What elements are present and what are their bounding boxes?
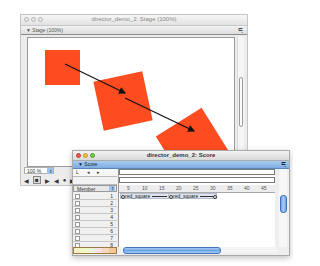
ruler-tick: 5 (127, 185, 130, 191)
score-panel-label: ▼ Score (78, 161, 97, 167)
display-select[interactable]: Member ⇕ (73, 185, 117, 192)
rewind-icon[interactable]: ◀ (24, 177, 29, 184)
markers-row: L ◂ ▸ (73, 169, 117, 177)
next-marker-icon[interactable]: ▸ (97, 169, 100, 175)
sprite-span-2[interactable]: red_square (168, 193, 217, 199)
ruler-tick: 20 (176, 185, 182, 191)
options-icon[interactable]: ≒ (238, 26, 243, 33)
ruler-tick: 40 (244, 185, 250, 191)
channel-row[interactable]: 1 (73, 193, 117, 200)
ruler-tick: 45 (261, 185, 267, 191)
score-horizontal-scrollbar[interactable] (121, 247, 277, 253)
ruler-tick: 30 (210, 185, 216, 191)
channel-row[interactable]: 6 (73, 228, 117, 235)
ruler-tick: 15 (159, 185, 165, 191)
channel-toggle[interactable] (75, 201, 80, 206)
score-panel-header[interactable]: ▼ Score ≒ (73, 161, 289, 169)
channel-number: 2 (110, 200, 113, 206)
channel-number: 1 (110, 193, 113, 199)
sprite-span-1[interactable]: red_square (120, 193, 170, 199)
sprite-label: red_square (173, 194, 198, 199)
marker-label-icon[interactable]: L (76, 169, 79, 175)
options-icon[interactable]: ≒ (281, 160, 286, 167)
sprite-toolbar-field[interactable] (119, 177, 275, 183)
stage-canvas[interactable] (27, 37, 235, 167)
frame-ruler[interactable]: 5 10 15 20 25 30 35 40 45 (119, 185, 275, 193)
step-back-icon[interactable]: ◀ (54, 177, 59, 184)
end-frame-icon[interactable] (213, 195, 217, 199)
channel-number: 4 (110, 214, 113, 220)
stage-panel-label: ▼ Stage (100%) (26, 27, 63, 33)
stop-icon[interactable]: ■ (33, 176, 41, 184)
zoom-select[interactable]: 100 % ⇕ (24, 167, 54, 174)
scroll-thumb[interactable] (280, 195, 287, 213)
stage-window-title: director_demo_2: Stage (100%) (21, 16, 247, 22)
score-vertical-scrollbar[interactable] (279, 169, 287, 247)
channel-row[interactable]: 4 (73, 214, 117, 221)
sprite-toolbar-row (73, 177, 117, 185)
channel-number: 5 (110, 221, 113, 227)
ruler-tick: 10 (142, 185, 148, 191)
scroll-thumb[interactable] (123, 247, 221, 254)
play-icon[interactable]: ▶ (45, 177, 50, 184)
channel-toggle[interactable] (75, 194, 80, 199)
score-window: director_demo_2: Score ▼ Score ≒ L ◂ ▸ M… (72, 150, 290, 256)
motion-path-arrows-icon (28, 38, 234, 166)
dropdown-arrow-icon: ⇕ (47, 168, 53, 174)
channel-number: 3 (110, 207, 113, 213)
dropdown-arrow-icon: ⇕ (109, 186, 115, 191)
channel-number: 7 (110, 235, 113, 241)
sprite-duration-line (200, 196, 214, 197)
channel-row[interactable]: 5 (73, 221, 117, 228)
stage-panel-header[interactable]: ▼ Stage (100%) ≒ (21, 26, 247, 35)
zoom-value: 100 % (27, 168, 41, 174)
display-select-value: Member (77, 186, 95, 192)
color-palette-strip[interactable] (73, 247, 117, 254)
prev-marker-icon[interactable]: ◂ (87, 169, 90, 175)
channel-panel: L ◂ ▸ Member ⇕ 1 2 3 4 5 6 7 8 (73, 169, 117, 257)
channel-toggle[interactable] (75, 208, 80, 213)
score-grid[interactable]: 5 10 15 20 25 30 35 40 45 red_square red… (118, 169, 275, 247)
sprite-duration-line (152, 196, 167, 197)
ruler-tick: 25 (193, 185, 199, 191)
channel-row[interactable]: 7 (73, 235, 117, 242)
sprite-label: red_square (125, 194, 150, 199)
loop-icon[interactable]: ● (63, 177, 67, 183)
ruler-tick: 35 (227, 185, 233, 191)
marker-channel[interactable] (119, 169, 275, 175)
score-titlebar[interactable]: director_demo_2: Score (73, 151, 289, 161)
scroll-thumb[interactable] (239, 77, 243, 127)
playback-controls: ◀ ■ ▶ ◀ ● ▶ (24, 176, 75, 184)
channel-toggle[interactable] (75, 222, 80, 227)
channel-number: 6 (110, 228, 113, 234)
stage-titlebar[interactable]: director_demo_2: Stage (100%) (21, 15, 247, 26)
channel-toggle[interactable] (75, 229, 80, 234)
channel-row[interactable]: 3 (73, 207, 117, 214)
score-window-title: director_demo_2: Score (73, 152, 289, 158)
channel-row[interactable]: 2 (73, 200, 117, 207)
channel-toggle[interactable] (75, 215, 80, 220)
channel-toggle[interactable] (75, 236, 80, 241)
stage-vertical-scrollbar[interactable] (237, 37, 244, 165)
